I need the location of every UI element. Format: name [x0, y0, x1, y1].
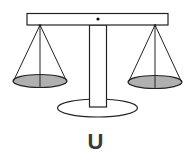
left-pan	[13, 24, 67, 87]
scale-post	[90, 25, 107, 107]
pivot-dot	[96, 17, 99, 20]
right-pan	[128, 24, 182, 88]
diagram-label: U	[0, 131, 191, 153]
balance-scale-diagram: U	[0, 0, 191, 156]
